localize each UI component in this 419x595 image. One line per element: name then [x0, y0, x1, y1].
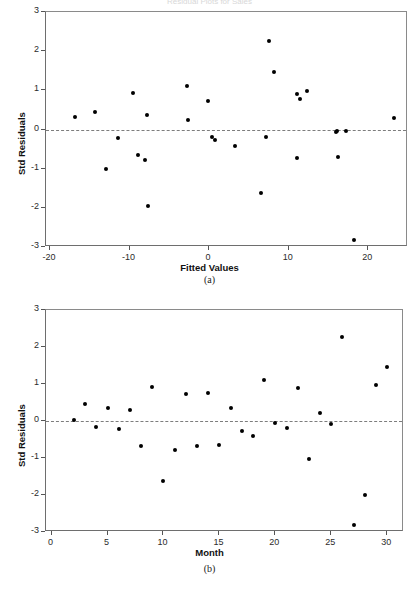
data-point — [186, 118, 190, 122]
data-point — [352, 238, 356, 242]
data-point — [272, 70, 276, 74]
data-point — [296, 386, 300, 390]
data-point — [229, 406, 233, 410]
y-tick — [41, 129, 45, 130]
x-tick — [51, 531, 52, 535]
data-point — [240, 429, 244, 433]
y-tick-label: 1 — [17, 378, 39, 387]
x-tick-label: 20 — [259, 538, 289, 547]
y-tick-label: -1 — [17, 163, 39, 172]
data-point — [318, 411, 322, 415]
y-tick — [41, 246, 45, 247]
data-point — [136, 153, 140, 157]
data-point — [128, 408, 132, 412]
x-tick-label: 0 — [193, 253, 223, 262]
y-tick-label: 2 — [17, 45, 39, 54]
y-tick-label: -3 — [17, 526, 39, 535]
y-tick — [41, 309, 45, 310]
y-tick — [41, 457, 45, 458]
data-point — [267, 39, 271, 43]
x-tick — [330, 531, 331, 535]
data-point — [259, 191, 263, 195]
y-tick-label: 0 — [17, 124, 39, 133]
y-tick — [41, 346, 45, 347]
y-tick — [41, 89, 45, 90]
data-point — [340, 335, 344, 339]
y-tick — [41, 420, 45, 421]
x-tick — [367, 246, 368, 250]
data-point — [336, 155, 340, 159]
data-point — [298, 97, 302, 101]
data-point — [161, 479, 165, 483]
y-tick-label: 1 — [17, 84, 39, 93]
y-tick-label: -3 — [17, 241, 39, 250]
x-axis-title-b: Month — [0, 547, 419, 558]
data-point — [262, 378, 266, 382]
data-point — [264, 135, 268, 139]
panel-caption-a: (a) — [0, 274, 419, 285]
y-tick-label: 3 — [17, 304, 39, 313]
y-tick-label: 0 — [17, 415, 39, 424]
data-point — [352, 523, 356, 527]
data-point — [285, 426, 289, 430]
x-tick — [162, 531, 163, 535]
data-point — [392, 116, 396, 120]
data-point — [251, 434, 255, 438]
y-tick — [41, 531, 45, 532]
plot-area-a — [45, 11, 407, 246]
x-tick — [107, 531, 108, 535]
data-point — [195, 444, 199, 448]
zero-reference-line — [46, 421, 402, 422]
x-tick — [218, 531, 219, 535]
data-point — [295, 92, 299, 96]
data-point — [94, 425, 98, 429]
residual-plot-panel-b: Month Std Residuals (b) -3-2-10123051015… — [0, 297, 419, 595]
x-tick-label: 30 — [371, 538, 401, 547]
zero-reference-line — [46, 130, 406, 131]
data-point — [185, 84, 189, 88]
x-axis-title-a: Fitted Values — [0, 262, 419, 273]
data-point — [145, 113, 149, 117]
data-point — [307, 457, 311, 461]
data-point — [173, 448, 177, 452]
residual-plot-panel-a: Residual Plots for Sales Fitted Values S… — [0, 0, 419, 297]
y-tick-label: -2 — [17, 202, 39, 211]
data-point — [117, 427, 121, 431]
data-point — [329, 422, 333, 426]
data-point — [363, 493, 367, 497]
plot-area-b — [45, 309, 403, 531]
y-tick — [41, 168, 45, 169]
data-point — [93, 110, 97, 114]
data-point — [305, 89, 309, 93]
data-point — [83, 402, 87, 406]
data-point — [146, 204, 150, 208]
y-tick — [41, 207, 45, 208]
data-point — [150, 385, 154, 389]
data-point — [295, 156, 299, 160]
data-point — [374, 383, 378, 387]
data-point — [273, 421, 277, 425]
data-point — [106, 406, 110, 410]
x-tick-label: 15 — [203, 538, 233, 547]
x-tick-label: 20 — [352, 253, 382, 262]
x-tick-label: 10 — [147, 538, 177, 547]
data-point — [184, 392, 188, 396]
data-point — [206, 99, 210, 103]
data-point — [335, 129, 339, 133]
data-point — [131, 91, 135, 95]
x-tick — [386, 531, 387, 535]
data-point — [73, 115, 77, 119]
data-point — [217, 443, 221, 447]
data-point — [116, 136, 120, 140]
y-tick-label: -2 — [17, 489, 39, 498]
x-tick-label: 5 — [92, 538, 122, 547]
figure-title: Residual Plots for Sales — [0, 0, 419, 4]
x-tick — [129, 246, 130, 250]
data-point — [385, 365, 389, 369]
x-tick-label: 0 — [36, 538, 66, 547]
data-point — [104, 167, 108, 171]
y-tick-label: 2 — [17, 341, 39, 350]
data-point — [344, 129, 348, 133]
data-point — [206, 391, 210, 395]
data-point — [233, 144, 237, 148]
